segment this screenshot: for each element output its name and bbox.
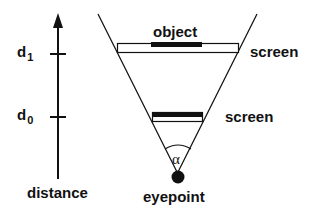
label-distance: distance (27, 185, 88, 200)
object-bar (151, 42, 202, 47)
label-screen-far: screen (250, 44, 298, 59)
label-alpha: α (172, 152, 180, 167)
near-screen-image-bar (152, 112, 203, 117)
label-eyepoint: eyepoint (143, 189, 205, 204)
label-d0: d0 (17, 107, 33, 122)
distance-axis-arrowhead (53, 13, 63, 28)
angle-arc (165, 145, 191, 149)
label-d1: d1 (17, 44, 33, 59)
eyepoint-dot (172, 171, 185, 184)
label-object: object (153, 24, 197, 39)
label-screen-near: screen (225, 109, 273, 124)
